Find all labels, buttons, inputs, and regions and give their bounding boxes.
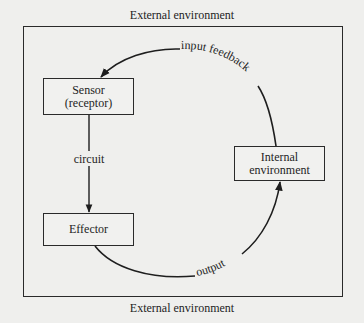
circuit-label: circuit — [64, 152, 114, 166]
internal-environment-node: Internal environment — [234, 146, 325, 181]
receptor-label: (receptor) — [65, 97, 112, 110]
environment-label: environment — [249, 164, 310, 177]
internal-label: Internal — [261, 151, 298, 164]
sensor-label: Sensor — [72, 84, 105, 97]
input-feedback-label: input feedback — [181, 38, 254, 74]
effector-node: Effector — [43, 213, 134, 246]
output-label: output — [195, 255, 228, 279]
sensor-node: Sensor (receptor) — [43, 78, 134, 115]
effector-label: Effector — [69, 223, 108, 236]
